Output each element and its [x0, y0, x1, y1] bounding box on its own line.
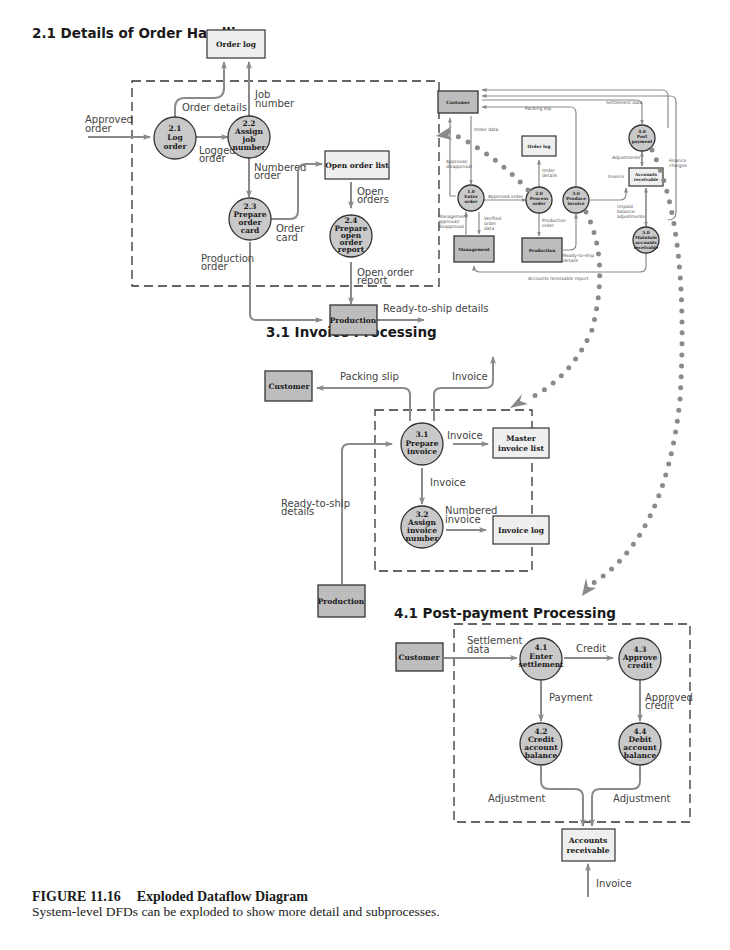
section-order-handling: Order log Open order list Approved order…: [85, 30, 488, 335]
process-2-1-log-order: 2.1 Log order: [154, 117, 196, 159]
store-order-log: Order log: [207, 30, 265, 58]
store-invoice-log: Invoice log: [493, 516, 549, 544]
svg-text:credit: credit: [628, 661, 653, 670]
svg-text:details: details: [281, 506, 314, 517]
svg-text:Adjustment: Adjustment: [488, 793, 545, 804]
svg-text:Invoice log: Invoice log: [498, 526, 545, 535]
svg-text:Log: Log: [167, 133, 183, 142]
svg-text:charges: charges: [669, 163, 687, 168]
process-2-2-assign-job-number: 2.2 Assign job number: [228, 116, 270, 158]
process-4-1-enter-settlement: 4.1 Enter settlement: [518, 638, 564, 680]
svg-text:Ready-to-ship details: Ready-to-ship details: [383, 303, 488, 314]
svg-text:receivable: receivable: [634, 177, 659, 182]
svg-text:number: number: [233, 143, 267, 152]
process-4-4-debit-account-balance: 4.4 Debit account balance: [619, 723, 661, 765]
figure-caption-title: FIGURE 11.16Exploded Dataflow Diagram: [32, 889, 308, 905]
svg-text:Accounts receivable report: Accounts receivable report: [528, 276, 589, 281]
svg-text:disapproval: disapproval: [438, 224, 464, 229]
process-3-1-prepare-invoice: 3.1 Prepare invoice: [401, 423, 443, 465]
svg-text:Adjustments: Adjustments: [612, 155, 641, 160]
svg-text:adjustments: adjustments: [617, 214, 646, 219]
svg-text:balance: balance: [525, 751, 558, 760]
svg-text:invoice: invoice: [407, 447, 437, 456]
entity-customer-4: Customer: [396, 643, 443, 671]
svg-text:Production: Production: [330, 316, 377, 325]
svg-text:data: data: [484, 226, 494, 231]
svg-text:2.1: 2.1: [168, 124, 181, 133]
svg-text:data: data: [467, 644, 490, 655]
svg-text:balance: balance: [624, 751, 657, 760]
svg-text:Invoice: Invoice: [596, 878, 632, 889]
svg-text:invoice list: invoice list: [498, 444, 544, 453]
svg-text:Invoice: Invoice: [608, 174, 624, 179]
process-4-3-approve-credit: 4.3 Approve credit: [619, 638, 661, 680]
svg-text:number: number: [406, 534, 440, 543]
svg-text:Settlement data: Settlement data: [606, 100, 643, 105]
svg-text:details: details: [563, 258, 579, 263]
svg-text:Order details: Order details: [182, 102, 247, 113]
svg-text:Invoice: Invoice: [430, 477, 466, 488]
svg-text:Master: Master: [506, 434, 537, 443]
svg-text:payment: payment: [632, 139, 653, 144]
svg-text:settlement: settlement: [518, 660, 564, 669]
store-order-log-mini: Order log: [522, 136, 556, 156]
process-3-0-produce-invoice-mini: 3.0 Produce invoice: [563, 187, 589, 213]
svg-text:order: order: [532, 201, 546, 206]
context-diagram: Customer Order log Management Production…: [438, 90, 687, 281]
svg-text:Customer: Customer: [446, 100, 470, 105]
svg-text:Invoice: Invoice: [447, 430, 483, 441]
svg-text:Order data: Order data: [474, 127, 499, 132]
svg-text:order: order: [199, 153, 227, 164]
svg-text:Customer: Customer: [269, 382, 311, 391]
svg-text:disapproval: disapproval: [446, 164, 472, 169]
svg-text:invoice: invoice: [567, 201, 584, 206]
section-invoice-processing: Customer Master invoice list Invoice log…: [265, 357, 549, 617]
entity-customer-mini: Customer: [438, 91, 478, 113]
svg-text:Accounts: Accounts: [568, 836, 608, 845]
svg-text:Approved order: Approved order: [488, 194, 523, 199]
svg-text:Production: Production: [318, 597, 365, 606]
svg-text:receivable: receivable: [634, 245, 659, 250]
svg-text:Customer: Customer: [399, 653, 441, 662]
svg-text:Payment: Payment: [549, 692, 593, 703]
figure-caption-text: System-level DFDs can be exploded to sho…: [32, 904, 440, 920]
process-5-0-maintain-ar-mini: 5.0 Maintain accounts receivable: [633, 227, 659, 253]
svg-text:Production: Production: [529, 248, 557, 253]
svg-text:order: order: [164, 142, 188, 151]
svg-text:Management: Management: [458, 247, 490, 252]
figure-title: Exploded Dataflow Diagram: [137, 889, 308, 904]
figure-number: FIGURE 11.16: [32, 889, 121, 904]
svg-text:3.1: 3.1: [415, 430, 428, 439]
process-2-3-prepare-order-card: 2.3 Prepare order card: [229, 198, 271, 240]
dataflow-diagram: .flow { fill:none; stroke:#8a8a8a; strok…: [0, 0, 730, 950]
process-4-2-credit-account-balance: 4.2 Credit account balance: [520, 723, 562, 765]
svg-text:number: number: [255, 98, 295, 109]
store-open-order-list: Open order list: [325, 151, 389, 179]
svg-text:Open order list: Open order list: [325, 161, 389, 170]
section-post-payment: Customer Accounts receivable Settlement …: [396, 624, 693, 897]
store-master-invoice-list: Master invoice list: [493, 428, 549, 458]
svg-text:order: order: [254, 170, 282, 181]
svg-text:Packing slip: Packing slip: [525, 106, 552, 111]
entity-production-3: Production: [318, 585, 365, 617]
entity-management-mini: Management: [454, 236, 494, 262]
svg-text:order: order: [464, 199, 478, 204]
svg-text:credit: credit: [645, 700, 674, 711]
svg-text:order: order: [85, 123, 113, 134]
svg-text:Credit: Credit: [576, 643, 606, 654]
svg-text:Order log: Order log: [216, 40, 257, 49]
svg-text:invoice: invoice: [445, 514, 481, 525]
svg-text:orders: orders: [357, 194, 389, 205]
svg-text:card: card: [241, 226, 260, 235]
process-2-4-prepare-open-order-report: 2.4 Prepare open order report: [330, 215, 372, 257]
entity-customer-3: Customer: [265, 371, 312, 401]
svg-text:receivable: receivable: [567, 846, 610, 855]
svg-text:order: order: [201, 261, 229, 272]
svg-text:report: report: [338, 245, 365, 254]
svg-text:Adjustment: Adjustment: [613, 793, 670, 804]
svg-text:Invoice: Invoice: [452, 371, 488, 382]
entity-production-mini: Production: [522, 238, 562, 262]
svg-text:details: details: [542, 173, 558, 178]
svg-text:card: card: [276, 232, 298, 243]
store-accounts-receivable: Accounts receivable: [562, 829, 615, 861]
